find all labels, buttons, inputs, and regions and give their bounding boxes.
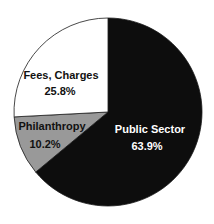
pie-chart: Public Sector 63.9% Philanthropy 10.2% F… bbox=[0, 0, 214, 224]
pie-slices bbox=[14, 18, 202, 206]
slice-value-public-sector: 63.9% bbox=[131, 140, 162, 152]
slice-label-fees-charges: Fees, Charges bbox=[23, 69, 98, 81]
slice-label-public-sector: Public Sector bbox=[115, 123, 186, 135]
pie-slice-fees-charges bbox=[14, 18, 108, 117]
slice-label-philanthropy: Philanthropy bbox=[18, 120, 86, 132]
slice-value-fees-charges: 25.8% bbox=[44, 85, 75, 97]
slice-value-philanthropy: 10.2% bbox=[29, 138, 60, 150]
